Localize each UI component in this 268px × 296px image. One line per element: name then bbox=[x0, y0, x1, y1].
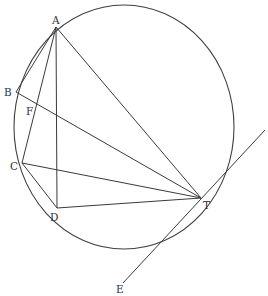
label-D: D bbox=[50, 211, 58, 223]
label-B: B bbox=[4, 86, 12, 98]
segment-AT bbox=[56, 27, 201, 198]
segment-BT bbox=[16, 92, 201, 198]
segment-AC bbox=[22, 27, 56, 163]
tangent-line-ET bbox=[123, 130, 265, 283]
segment-CT bbox=[22, 163, 201, 198]
segment-AB bbox=[16, 27, 56, 92]
label-F: F bbox=[26, 105, 33, 117]
label-E: E bbox=[116, 283, 124, 295]
label-T: T bbox=[203, 199, 210, 211]
label-A: A bbox=[51, 14, 60, 26]
segment-DT bbox=[57, 198, 201, 208]
segment-AD bbox=[56, 27, 57, 208]
label-C: C bbox=[10, 160, 18, 172]
geometry-diagram: A B F C D T E bbox=[0, 0, 268, 296]
